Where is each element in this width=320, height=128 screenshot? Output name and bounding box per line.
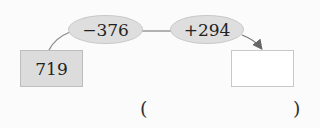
answer-paren-open: ( — [140, 97, 147, 119]
result-box[interactable] — [231, 50, 294, 87]
operation-label: +294 — [184, 20, 231, 40]
operation-add: +294 — [170, 15, 244, 44]
start-value-box: 719 — [20, 50, 83, 87]
operation-label: −376 — [82, 20, 129, 40]
start-value: 719 — [35, 59, 67, 79]
answer-paren-close: ) — [293, 97, 300, 119]
operation-subtract: −376 — [68, 15, 143, 44]
